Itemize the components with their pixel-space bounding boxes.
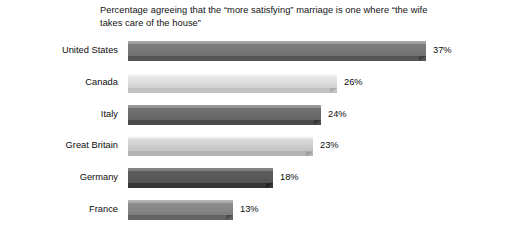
bar-row: Canada26% [0,73,505,99]
bar-body-face [128,139,313,151]
bar [128,41,426,63]
bar-bottom-face [128,56,426,61]
bar-bottom-face [128,88,337,93]
bar-row: Great Britain23% [0,136,505,162]
value-label: 13% [240,204,259,215]
bar-row: United States37% [0,41,505,67]
category-label: Canada [0,77,118,88]
bar-bottom-face [128,215,233,220]
value-label: 23% [320,140,339,151]
bar [128,136,313,158]
bar-body-face [128,171,273,183]
bar-body-face [128,203,233,215]
bar-chart: Percentage agreeing that the “more satis… [0,0,505,236]
value-label: 37% [433,45,452,56]
bar-body-face [128,108,321,120]
value-label: 24% [328,109,347,120]
bar-bottom-face [128,120,321,125]
value-label: 26% [344,77,363,88]
bar-body-face [128,76,337,88]
bar [128,73,337,95]
bar [128,168,273,190]
bar-body-face [128,44,426,56]
bar-bottom-face [128,151,313,156]
value-label: 18% [280,172,299,183]
bar [128,105,321,127]
category-label: France [0,204,118,215]
bar-row: France13% [0,200,505,226]
bar-bottom-face [128,183,273,188]
category-label: Great Britain [0,140,118,151]
bar-row: Italy24% [0,105,505,131]
bar [128,200,233,222]
category-label: Italy [0,109,118,120]
plot-area: United States37%Canada26%Italy24%Great B… [0,36,505,236]
bar-row: Germany18% [0,168,505,194]
chart-title: Percentage agreeing that the “more satis… [100,4,430,29]
category-label: Germany [0,172,118,183]
category-label: United States [0,45,118,56]
